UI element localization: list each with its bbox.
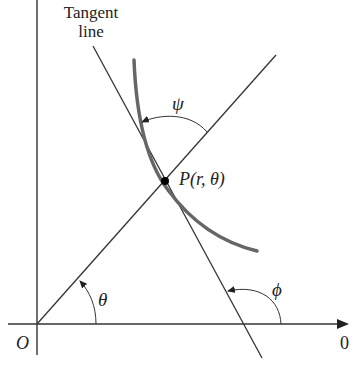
tangent-line-label-line1: Tangent — [52, 3, 130, 22]
tangent-line-label: Tangent line — [52, 3, 130, 41]
point-p — [161, 177, 169, 185]
tangent-line-label-line2: line — [52, 22, 130, 41]
theta-label: θ — [98, 289, 107, 311]
polar-axis-label: 0 — [340, 333, 349, 354]
psi-angle-arc — [142, 116, 207, 132]
radial-line — [37, 55, 276, 324]
psi-label: ψ — [172, 93, 184, 115]
point-p-label: P(r, θ) — [179, 169, 225, 190]
polar-tangent-diagram: Tangent line ψ P(r, θ) θ ϕ O 0 — [0, 0, 358, 382]
phi-label: ϕ — [272, 279, 282, 301]
diagram-canvas — [0, 0, 358, 382]
theta-angle-arc — [80, 281, 96, 324]
origin-label: O — [16, 333, 29, 354]
